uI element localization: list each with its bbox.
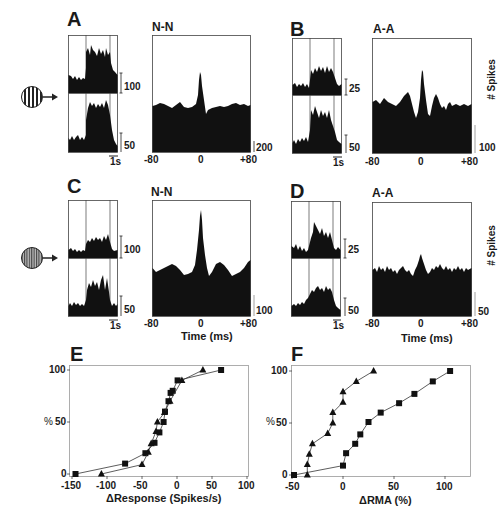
psth-scale-c-top: 100 [124,244,141,255]
time-bar-d: 1s [333,320,344,331]
time-bar-b: 1s [333,157,344,168]
psth-scale-b-bottom: 50 [349,142,360,153]
ccg-xtick-b-zero: 0 [418,156,424,167]
psth-scale-a-top: 100 [124,81,141,92]
chart-e-xlabel: ΔResponse (Spikes/s) [106,492,222,504]
chart-e-xtick-m100: -100 [96,480,116,491]
panel-letter-f: F [291,343,303,366]
psth-scale-d-bottom: 50 [348,305,359,316]
chart-e [67,366,249,480]
panel-d-psth [292,201,347,320]
ccg-xtick-b-min: -80 [365,156,379,167]
ccg-title-c: N-N [151,185,172,199]
psth-scale-b-top: 25 [349,83,360,94]
ccg-scale-d: 50 [478,306,489,317]
x-axis-label-d: Time (ms) [401,332,453,344]
chart-e-ytick-0: 0 [61,468,67,479]
chart-e-xtick-50: 50 [206,480,217,491]
chart-e-xtick-m150: -150 [61,480,81,491]
x-axis-label-c: Time (ms) [181,330,233,342]
ccg-scale-c: 100 [256,305,273,316]
psth-scale-d-top: 25 [348,244,359,255]
figure-graphics [0,0,501,516]
chart-e-xtick-100: 100 [238,480,255,491]
time-bar-c: 1s [110,320,121,331]
chart-f-xtick-m50: -50 [285,481,299,492]
chart-f-ytick-100: 100 [271,365,288,376]
chart-e-ytick-100: 100 [49,364,66,375]
panel-c-psth [69,200,123,320]
ccg-xtick-c-zero: 0 [198,318,204,329]
chart-e-xtick-m50: -50 [133,480,147,491]
ccg-xtick-d-max: +80 [461,318,478,329]
psth-scale-a-bottom: 50 [124,140,135,151]
ccg-title-a: N-N [152,20,173,34]
vertical-grating-stimulus-icon [22,87,59,108]
y-axis-label-row2: # Spikes [486,221,497,271]
ccg-xtick-c-min: -80 [144,318,158,329]
ccg-xtick-a-max: +80 [240,154,257,165]
dense-grating-stimulus-icon [22,248,59,269]
panel-b-psth [293,38,348,157]
panel-letter-e: E [70,343,83,366]
panel-letter-a: A [67,8,81,31]
ccg-xtick-a-zero: 0 [198,154,204,165]
panel-a-ccg [153,36,255,153]
ccg-xtick-d-min: -80 [365,318,379,329]
ccg-scale-b: 100 [479,142,496,153]
panel-letter-b: B [290,18,304,41]
chart-e-xtick-0: 0 [174,480,180,491]
chart-f-xlabel: ΔRMA (%) [359,494,412,506]
ccg-xtick-d-zero: 0 [418,318,424,329]
ccg-xtick-c-max: +80 [240,318,257,329]
chart-e-ylabel: % [44,416,53,427]
panel-c-ccg [153,201,255,317]
ccg-title-b: A-A [373,22,394,36]
panel-a-psth [69,35,123,156]
panel-letter-c: C [67,175,81,198]
ccg-xtick-a-min: -80 [144,154,158,165]
chart-f-ytick-50: 50 [276,417,287,428]
chart-f-ytick-0: 0 [282,469,288,480]
ccg-title-d: A-A [372,186,393,200]
chart-f-xtick-50: 50 [388,481,399,492]
chart-f-xtick-100: 100 [436,481,453,492]
y-axis-label-row1: # Spikes [486,55,497,105]
ccg-xtick-b-max: +80 [461,156,478,167]
panel-b-ccg [373,39,476,154]
panel-letter-d: D [290,180,304,203]
chart-f-xtick-0: 0 [340,481,346,492]
ccg-scale-a: 200 [256,142,273,153]
time-bar-a: 1s [110,156,121,167]
panel-d-ccg [373,203,476,317]
chart-f-ylabel: % [266,416,275,427]
chart-e-ytick-50: 50 [55,416,66,427]
chart-f [289,366,471,480]
psth-scale-c-bottom: 50 [124,304,135,315]
